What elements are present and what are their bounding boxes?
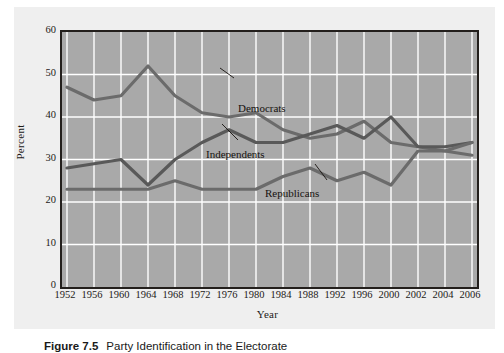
- leader-line-democrats: [220, 68, 234, 78]
- figure-caption-text: Party Identification in the Electorate: [106, 340, 287, 352]
- x-tick-label: 2006: [453, 290, 487, 301]
- series-label-democrats: Democrats: [238, 103, 286, 114]
- y-tick-label: 50: [30, 68, 56, 79]
- y-axis-title: Percent: [14, 102, 26, 182]
- y-tick-label: 60: [30, 25, 56, 36]
- x-axis-ticks: 1952195619601964196819721976198019841988…: [60, 290, 475, 306]
- y-tick-label: 40: [30, 110, 56, 121]
- plot-area: Democrats Independents Republicans: [60, 30, 479, 289]
- chart-lines: [62, 32, 477, 287]
- y-tick-label: 10: [30, 238, 56, 249]
- y-tick-label: 20: [30, 195, 56, 206]
- y-tick-label: 0: [30, 280, 56, 291]
- series-line-independents: [67, 117, 472, 185]
- figure-root: Percent 0102030405060 Democrats Independ…: [0, 0, 504, 353]
- series-label-independents: Independents: [206, 149, 265, 160]
- figure-caption-number: Figure 7.5: [44, 340, 98, 352]
- series-label-republicans: Republicans: [265, 188, 319, 199]
- y-tick-label: 30: [30, 153, 56, 164]
- x-axis-title: Year: [60, 308, 475, 320]
- figure-caption: Figure 7.5Party Identification in the El…: [44, 340, 484, 352]
